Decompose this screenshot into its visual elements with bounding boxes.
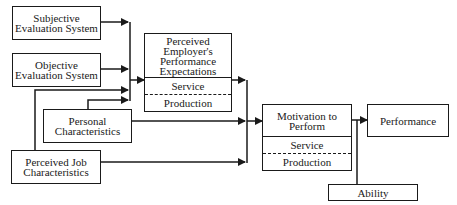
node-label: Perceived Job Characteristics: [12, 151, 100, 183]
node-personal-characteristics: Personal Characteristics: [43, 109, 132, 143]
node-label: Personal Characteristics: [44, 110, 131, 142]
section-production: Production: [263, 153, 351, 170]
node-ability: Ability: [328, 184, 418, 201]
node-perceived-job-characteristics: Perceived Job Characteristics: [11, 150, 101, 184]
node-label: Performance: [368, 105, 448, 136]
node-label: Motivation to Perform: [263, 105, 351, 136]
node-label: Objective Evaluation System: [13, 54, 100, 86]
section-service: Service: [263, 136, 351, 153]
node-performance: Performance: [367, 104, 449, 137]
node-label: Perceived Employer's Performance Expecta…: [145, 34, 231, 77]
node-objective-evaluation-system: Objective Evaluation System: [12, 53, 101, 87]
node-label: Ability: [329, 185, 417, 200]
node-perceived-employer-expectations: Perceived Employer's Performance Expecta…: [144, 33, 232, 112]
node-label: Subjective Evaluation System: [13, 7, 100, 39]
section-service: Service: [145, 77, 231, 94]
node-motivation-to-perform: Motivation to Perform Service Production: [262, 104, 352, 171]
section-production: Production: [145, 94, 231, 111]
node-subjective-evaluation-system: Subjective Evaluation System: [12, 6, 101, 40]
